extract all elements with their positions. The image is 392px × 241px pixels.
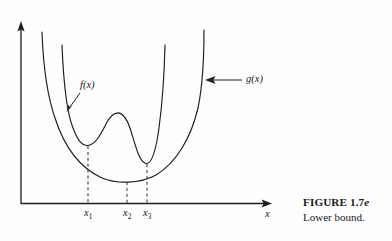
tick-label-x2: x2 xyxy=(123,207,131,221)
curve-g xyxy=(42,30,204,182)
f-label-leader xyxy=(67,93,81,112)
figure-caption-number: FIGURE 1.7 xyxy=(303,196,364,208)
figure-container: f(x) g(x) x x1 x2 x3 FIGURE 1.7e Lower b… xyxy=(0,0,392,241)
x-axis-label: x xyxy=(265,208,270,219)
curve-f xyxy=(62,45,165,164)
figure-caption: FIGURE 1.7e Lower bound. xyxy=(303,196,389,224)
tick-label-x2-sub: 2 xyxy=(128,212,132,221)
tick-label-x3-sub: 3 xyxy=(148,212,152,221)
tick-label-x3: x3 xyxy=(143,207,151,221)
curve-label-g: g(x) xyxy=(246,73,263,84)
g-label-leader xyxy=(205,76,242,84)
tick-label-x1: x1 xyxy=(84,207,92,221)
figure-caption-title: FIGURE 1.7e xyxy=(303,196,389,210)
figure-caption-text: Lower bound. xyxy=(303,211,389,224)
curve-label-f: f(x) xyxy=(80,79,95,90)
tick-label-x1-sub: 1 xyxy=(89,212,93,221)
figure-caption-letter: e xyxy=(364,196,369,208)
vertical-axis xyxy=(17,21,24,204)
